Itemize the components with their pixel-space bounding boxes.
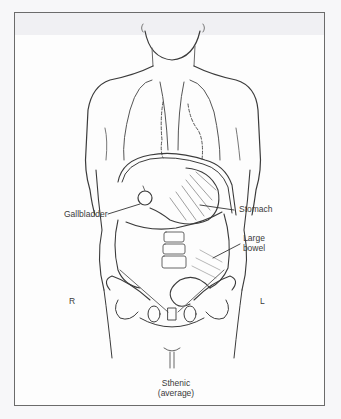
lumbar-spine	[162, 232, 186, 268]
left-lung	[190, 80, 220, 160]
pelvis-lines	[120, 270, 224, 312]
pubic-symphysis	[168, 308, 176, 320]
large-bowel-label-line1: Large	[240, 233, 268, 243]
stomach-label: Stomach	[239, 204, 273, 214]
right-lung	[124, 80, 152, 160]
left-hip-joint	[206, 300, 229, 319]
gallbladder-shape	[138, 191, 152, 205]
inner-leg-lines	[170, 352, 174, 368]
neck-left	[194, 46, 195, 66]
right-ear	[142, 24, 144, 32]
stomach-hatching	[170, 172, 216, 220]
left-arm-inner	[236, 128, 240, 160]
sigmoid-colon	[170, 277, 210, 306]
crotch-line	[164, 348, 180, 351]
right-torso-side	[96, 170, 104, 290]
bowel-hatching	[192, 250, 222, 278]
right-iliac-crest	[106, 276, 150, 300]
caption: Sthenic (average)	[146, 378, 206, 398]
right-obturator	[148, 306, 160, 322]
gallbladder-duct	[143, 186, 145, 191]
right-leg-outline	[104, 290, 112, 358]
right-hip-joint	[115, 300, 138, 319]
right-lung-inner	[160, 82, 168, 150]
heart-right-dashed	[161, 102, 163, 158]
left-leg-outline	[234, 290, 242, 358]
caption-line1: Sthenic	[146, 378, 206, 388]
large-bowel-ascending	[115, 220, 140, 288]
left-ear	[203, 24, 205, 32]
large-bowel-label-line2: bowel	[240, 243, 268, 253]
right-shoulder	[86, 66, 154, 215]
left-shoulder	[194, 66, 261, 215]
large-bowel-label: Large bowel	[240, 233, 268, 253]
torso-illustration	[0, 0, 341, 419]
right-side-label: R	[69, 296, 75, 306]
caption-line2: (average)	[146, 388, 206, 398]
left-side-label: L	[260, 296, 265, 306]
right-arm-inner	[105, 128, 107, 160]
heart-left-dashed	[188, 104, 203, 160]
large-bowel-pointer	[213, 244, 240, 258]
left-torso-side	[242, 170, 250, 290]
gallbladder-label: Gallbladder	[64, 209, 107, 219]
jaw-outline	[145, 31, 200, 60]
left-lung-inner	[178, 82, 184, 150]
left-obturator	[184, 306, 196, 322]
gallbladder-pointer	[108, 204, 140, 214]
